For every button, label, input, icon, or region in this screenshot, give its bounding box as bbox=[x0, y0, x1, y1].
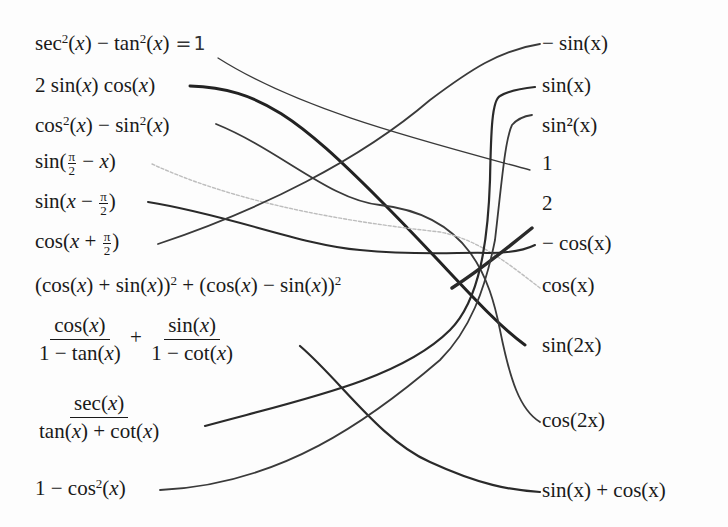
right-expr-9: cos(2x) bbox=[542, 410, 605, 431]
match-line-l1-r4 bbox=[218, 58, 530, 170]
left-expr-9: sec(x)tan(x) + cot(x) bbox=[35, 393, 163, 442]
left-expr-5: sin(x − π2) bbox=[35, 190, 116, 217]
left-expr-4: sin(π2 − x) bbox=[35, 150, 116, 177]
right-expr-7: cos(x) bbox=[542, 275, 594, 296]
right-expr-2: sin(x) bbox=[542, 75, 591, 96]
right-expr-5: 2 bbox=[542, 193, 553, 214]
left-expr-10: 1 − cos2(x) bbox=[35, 478, 126, 499]
match-line-l8-r10 bbox=[300, 346, 540, 492]
match-line-l9-r2 bbox=[205, 87, 535, 426]
left-expr-7: (cos(x) + sin(x))2 + (cos(x) − sin(x))2 bbox=[35, 275, 341, 296]
left-expr-3: cos2(x) − sin2(x) bbox=[35, 115, 170, 136]
match-line-l7-r5 bbox=[452, 228, 532, 288]
left-expr-8: cos(x)1 − tan(x) + sin(x)1 − cot(x) bbox=[35, 315, 237, 364]
left-expr-6: cos(x + π2) bbox=[35, 230, 119, 257]
right-expr-3: sin²(x) bbox=[542, 115, 597, 136]
right-expr-6: − cos(x) bbox=[542, 233, 612, 254]
right-expr-10: sin(x) + cos(x) bbox=[542, 480, 666, 501]
handwritten-annotation: =1 bbox=[176, 32, 208, 54]
left-expr-1: sec2(x) − tan2(x)=1 bbox=[35, 33, 208, 54]
right-expr-1: − sin(x) bbox=[542, 33, 608, 54]
match-line-l6-r1 bbox=[158, 44, 540, 244]
right-expr-4: 1 bbox=[542, 153, 553, 174]
match-line-l10-r3 bbox=[160, 115, 532, 490]
right-expr-8: sin(2x) bbox=[542, 335, 602, 356]
left-expr-2: 2 sin(x) cos(x) bbox=[35, 75, 155, 96]
